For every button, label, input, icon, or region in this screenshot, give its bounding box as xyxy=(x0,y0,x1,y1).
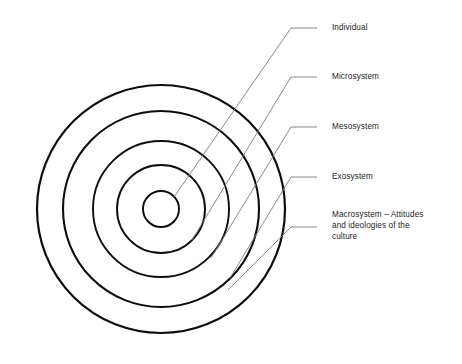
label-macrosystem: Macrosystem – Attitudes and ideologies o… xyxy=(332,209,424,243)
ecological-systems-diagram: IndividualMicrosystemMesosystemExosystem… xyxy=(0,0,462,364)
mesosystem-ring xyxy=(93,141,229,277)
concentric-rings-group xyxy=(37,85,285,333)
diagram-canvas xyxy=(0,0,462,364)
label-exosystem: Exosystem xyxy=(332,171,373,182)
leader-line-individual xyxy=(174,28,317,197)
leader-line-microsystem xyxy=(192,77,317,240)
label-mesosystem: Mesosystem xyxy=(332,121,379,132)
individual-ring xyxy=(143,191,179,227)
label-microsystem: Microsystem xyxy=(332,71,379,82)
label-individual: Individual xyxy=(332,22,368,33)
macrosystem-ring xyxy=(37,85,285,333)
